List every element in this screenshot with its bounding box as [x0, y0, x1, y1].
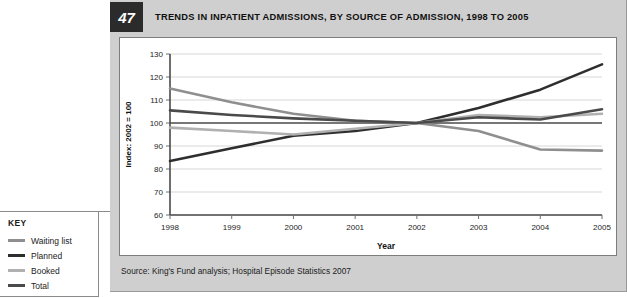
figure-number-badge: 47	[110, 2, 143, 32]
key-swatch-icon	[8, 281, 25, 290]
y-axis-tick-label: 80	[154, 165, 163, 174]
y-axis-tick-label: 100	[150, 119, 164, 128]
x-axis-tick-label: 1998	[161, 223, 179, 232]
x-axis-tick-label: 2001	[346, 223, 364, 232]
x-axis-tick-label: 2004	[531, 223, 549, 232]
y-axis-tick-label: 120	[150, 73, 164, 82]
y-axis-tick-label: 70	[154, 188, 163, 197]
y-axis-title: Index: 2002 = 100	[124, 101, 133, 168]
x-axis-title: Year	[377, 241, 396, 251]
line-chart: 6070809010011012013019981999200020012002…	[120, 38, 616, 255]
key-title: KEY	[8, 218, 98, 228]
series-line-planned	[170, 64, 602, 161]
y-axis-tick-label: 60	[154, 211, 163, 220]
y-axis-tick-label: 130	[150, 50, 164, 59]
key-item-booked: Booked	[8, 263, 98, 278]
x-axis-tick-label: 2005	[593, 223, 611, 232]
key-item-waiting-list: Waiting list	[8, 233, 98, 248]
chart-plot-frame: 6070809010011012013019981999200020012002…	[119, 37, 617, 256]
key-label: Total	[31, 281, 49, 291]
x-axis-tick-label: 1999	[223, 223, 241, 232]
y-axis-tick-label: 110	[150, 96, 163, 105]
series-line-booked	[170, 114, 602, 135]
page-title: TRENDS IN INPATIENT ADMISSIONS, BY SOURC…	[155, 12, 529, 22]
key-item-planned: Planned	[8, 248, 98, 263]
y-axis-tick-label: 90	[154, 142, 163, 151]
key-swatch-icon	[8, 251, 25, 260]
source-note: Source: King's Fund analysis; Hospital E…	[121, 266, 351, 276]
x-axis-tick-label: 2000	[285, 223, 303, 232]
key-legend-box: KEY Waiting list Planned Booked Total	[0, 211, 99, 297]
key-swatch-icon	[8, 236, 25, 245]
key-swatch-icon	[8, 266, 25, 275]
figure-header: 47 TRENDS IN INPATIENT ADMISSIONS, BY SO…	[110, 2, 626, 32]
key-label: Waiting list	[31, 236, 72, 246]
key-item-total: Total	[8, 278, 98, 293]
x-axis-tick-label: 2003	[470, 223, 488, 232]
x-axis-tick-label: 2002	[408, 223, 426, 232]
key-label: Planned	[31, 251, 62, 261]
figure-panel: 47 TRENDS IN INPATIENT ADMISSIONS, BY SO…	[110, 0, 627, 292]
key-label: Booked	[31, 266, 60, 276]
